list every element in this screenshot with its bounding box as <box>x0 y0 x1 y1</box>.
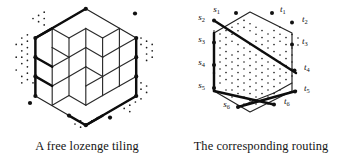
sink-node-t2 <box>290 21 294 25</box>
sink-node-t6 <box>272 103 276 107</box>
routing-diagram: s1 s2 s3 s4 s5 s6 t1 t2 t3 t4 t5 t6 <box>174 0 348 140</box>
panel-lozenge-tiling: A free lozenge tiling <box>0 0 174 168</box>
sink-node-t1 <box>270 11 274 15</box>
interior-lattice-dots <box>213 20 299 105</box>
panel-corresponding-routing: s1 s2 s3 s4 s5 s6 t1 t2 t3 t4 t5 t6 The … <box>174 0 348 168</box>
source-label-s3: s3 <box>198 34 205 45</box>
sink-node-t5 <box>293 90 297 94</box>
source-label-s4: s4 <box>198 57 206 68</box>
sink-node-t3 <box>290 43 294 47</box>
sink-node-t4 <box>293 69 297 73</box>
source-label-s2: s2 <box>198 12 205 23</box>
source-label-s5: s5 <box>198 80 205 91</box>
routing-inner-guide-2 <box>274 83 292 93</box>
routing-paths <box>214 21 296 108</box>
sink-label-t4: t4 <box>304 62 311 73</box>
source-node-s3 <box>212 41 216 45</box>
caption-corresponding-routing: The corresponding routing <box>174 138 348 154</box>
sink-label-t3: t3 <box>302 36 308 47</box>
source-label-s1: s1 <box>213 4 220 15</box>
lozenge-tiling-diagram <box>0 0 174 140</box>
sink-label-t6: t6 <box>284 96 290 107</box>
sink-label-t1: t1 <box>280 4 286 15</box>
sink-label-t2: t2 <box>302 14 308 25</box>
source-node-s4 <box>212 63 216 67</box>
figure-root: A free lozenge tiling <box>0 0 348 168</box>
sink-label-t5: t5 <box>304 83 310 94</box>
source-node-s6 <box>236 105 240 109</box>
source-node-s5 <box>212 86 216 90</box>
source-node-s1 <box>234 11 238 15</box>
source-label-s6: s6 <box>223 99 230 110</box>
caption-lozenge-tiling: A free lozenge tiling <box>0 138 174 154</box>
source-node-s2 <box>212 19 216 23</box>
